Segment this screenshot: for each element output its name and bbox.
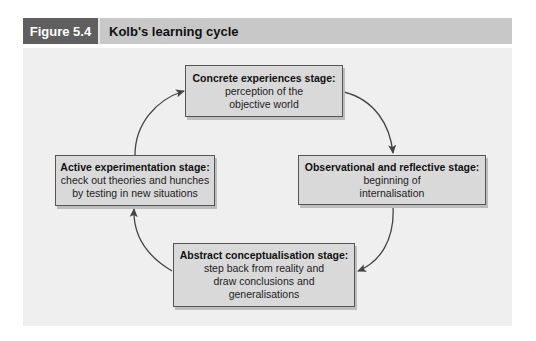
stage-box-observational-reflective: Observational and reflective stage: begi… (298, 155, 486, 205)
stage-title: Observational and reflective stage: (305, 161, 479, 174)
stage-description-line: internalisation (360, 187, 425, 200)
stage-box-active-experimentation: Active experimentation stage: check out … (55, 155, 215, 206)
stage-description-line: generalisations (229, 288, 300, 301)
stage-box-abstract-conceptualisation: Abstract conceptualisation stage: step b… (173, 243, 355, 307)
stage-box-concrete-experiences: Concrete experiences stage: perception o… (185, 65, 343, 117)
stage-description-line: step back from reality and (204, 262, 324, 275)
arrow-active-to-concrete (135, 91, 184, 155)
stage-description-line: beginning of (363, 174, 420, 187)
stage-title: Abstract conceptualisation stage: (180, 249, 349, 262)
stage-description-line: draw conclusions and (214, 275, 315, 288)
stage-title: Concrete experiences stage: (193, 72, 336, 85)
arrow-concrete-to-observational (344, 92, 393, 153)
arrow-abstract-to-active (134, 209, 172, 271)
stage-description-line: by testing in new situations (72, 187, 198, 200)
stage-description-line: check out theories and hunches (61, 174, 209, 187)
arrow-observational-to-abstract (358, 206, 393, 271)
stage-description-line: objective world (229, 98, 298, 111)
stage-title: Active experimentation stage: (60, 161, 209, 174)
stage-description-line: perception of the (225, 85, 303, 98)
